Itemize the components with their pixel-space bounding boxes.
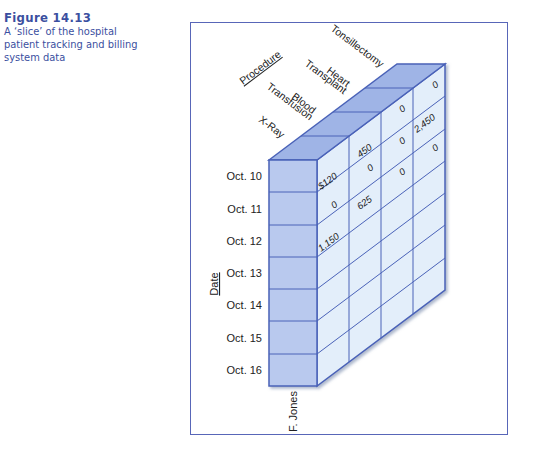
- date-axis-label: Date: [208, 272, 220, 295]
- date-label: Oct. 16: [227, 364, 262, 376]
- date-labels: Oct. 10 Oct. 11 Oct. 12 Oct. 13 Oct. 14 …: [227, 170, 262, 376]
- date-label: Oct. 11: [227, 203, 262, 215]
- data-cube-diagram: Oct. 10 Oct. 11 Oct. 12 Oct. 13 Oct. 14 …: [0, 0, 534, 462]
- procedure-label-tonsillectomy: Tonsillectomy: [329, 22, 387, 70]
- patient-label: F. Jones: [287, 391, 299, 432]
- cube-front-face: [269, 160, 317, 386]
- procedure-label-xray: X-Ray: [257, 113, 288, 141]
- date-label: Oct. 12: [227, 235, 262, 247]
- date-axis-label-group: Date: [208, 272, 220, 295]
- date-label: Oct. 10: [227, 170, 262, 182]
- date-label: Oct. 15: [227, 332, 262, 344]
- date-label: Oct. 14: [227, 299, 262, 311]
- procedure-axis-label: Procedure: [237, 48, 283, 87]
- procedure-axis-label-group: Procedure: [237, 48, 283, 87]
- date-label: Oct. 13: [227, 267, 262, 279]
- patient-label-group: F. Jones: [287, 391, 299, 432]
